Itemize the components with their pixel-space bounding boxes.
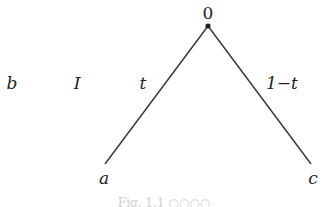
leaf-label-c: c	[308, 168, 318, 188]
edge-right	[208, 26, 311, 164]
figure-caption: Fig. 1.1 ○○○○	[118, 196, 210, 207]
edge-label-one-minus-t: 1−t	[266, 73, 298, 93]
edge-left	[105, 26, 208, 164]
side-label-b: b	[7, 73, 18, 93]
root-label: 0	[203, 3, 214, 23]
edge-label-t: t	[140, 73, 147, 93]
leaf-label-a: a	[99, 168, 109, 188]
side-label-i: I	[73, 73, 81, 93]
root-node	[205, 23, 210, 28]
tree-diagram: 0 a c t 1−t b I Fig. 1.1 ○○○○	[0, 0, 328, 207]
